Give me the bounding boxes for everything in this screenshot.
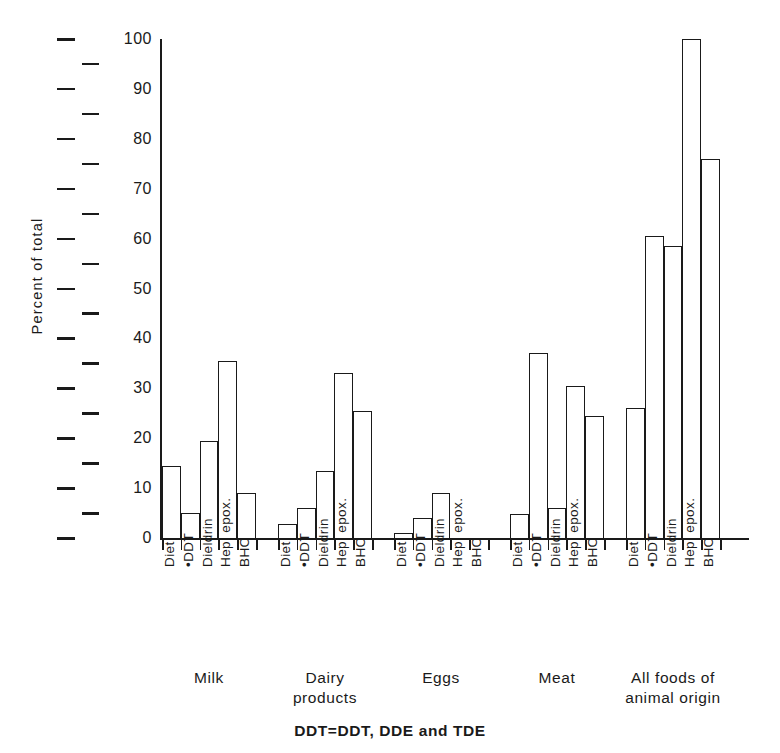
x-tick: [256, 538, 258, 550]
y-tick-major-30: [57, 387, 75, 390]
category-label-hepepox: Hep. epox.: [334, 498, 349, 567]
category-label-ddt: •DDT: [529, 533, 544, 567]
category-label-bhc: BHC: [585, 537, 600, 567]
y-tick-minor-95: [82, 63, 99, 66]
bar-milk-diet: [162, 466, 181, 538]
y-tick-major-0: [57, 537, 75, 540]
y-tick-label-80: 80: [106, 130, 152, 148]
y-tick-major-70: [57, 188, 75, 191]
bar-meat-diet: [510, 514, 529, 538]
category-label-hepepox: Hep. epox.: [218, 498, 233, 567]
group-label-all-foods-of-animal-origin: All foods of animal origin: [598, 668, 748, 709]
x-tick: [488, 538, 490, 550]
y-tick-minor-75: [82, 163, 99, 166]
y-axis-title: Percent of total: [29, 176, 45, 376]
y-tick-label-90: 90: [106, 80, 152, 98]
chart-footnote: DDT=DDT, DDE and TDE: [0, 722, 780, 740]
y-tick-major-40: [57, 337, 75, 340]
y-tick-major-50: [57, 288, 75, 291]
y-tick-major-90: [57, 88, 75, 91]
category-label-dieldrin: Dieldrin: [200, 518, 215, 567]
bar-all-foods-of-animal-origin-ddt: [645, 236, 664, 538]
y-tick-minor-65: [82, 213, 99, 216]
y-tick-minor-5: [82, 512, 99, 515]
category-label-diet: Diet: [162, 541, 177, 567]
bar-all-foods-of-animal-origin-hepepox: [682, 39, 701, 538]
y-tick-label-10: 10: [106, 479, 152, 497]
y-tick-label-30: 30: [106, 379, 152, 397]
y-tick-minor-55: [82, 263, 99, 266]
category-label-diet: Diet: [278, 541, 293, 567]
category-label-dieldrin: Dieldrin: [316, 518, 331, 567]
y-tick-label-20: 20: [106, 429, 152, 447]
category-label-ddt: •DDT: [413, 533, 428, 567]
category-label-ddt: •DDT: [181, 533, 196, 567]
y-tick-major-20: [57, 437, 75, 440]
category-label-dieldrin: Dieldrin: [548, 518, 563, 567]
category-label-bhc: BHC: [353, 537, 368, 567]
bar-all-foods-of-animal-origin-diet: [626, 408, 645, 538]
y-tick-major-10: [57, 487, 75, 490]
y-axis-line: [160, 39, 162, 538]
y-tick-label-60: 60: [106, 230, 152, 248]
bar-dairy-products-diet: [278, 524, 297, 538]
x-tick: [372, 538, 374, 550]
category-label-diet: Diet: [626, 541, 641, 567]
bar-meat-ddt: [529, 353, 548, 538]
y-tick-major-100: [57, 38, 75, 41]
bar-meat-bhc: [585, 416, 604, 538]
y-tick-major-80: [57, 138, 75, 141]
category-label-ddt: •DDT: [297, 533, 312, 567]
bar-eggs-diet: [394, 533, 413, 538]
y-tick-minor-85: [82, 113, 99, 116]
x-tick: [604, 538, 606, 550]
category-label-hepepox: Hep. epox.: [450, 498, 465, 567]
y-tick-major-60: [57, 238, 75, 241]
bar-dairy-products-bhc: [353, 411, 372, 538]
y-tick-label-50: 50: [106, 280, 152, 298]
bar-all-foods-of-animal-origin-dieldrin: [664, 246, 683, 538]
y-tick-label-40: 40: [106, 329, 152, 347]
bar-milk-bhc: [237, 493, 256, 538]
y-tick-label-70: 70: [106, 180, 152, 198]
category-label-bhc: BHC: [469, 537, 484, 567]
y-tick-minor-25: [82, 412, 99, 415]
category-label-bhc: BHC: [701, 537, 716, 567]
chart-figure: Percent of total 0102030405060708090100 …: [0, 0, 780, 753]
category-label-hepepox: Hep. epox.: [566, 498, 581, 567]
y-tick-minor-35: [82, 362, 99, 365]
y-tick-label-100: 100: [106, 30, 152, 48]
category-label-dieldrin: Dieldrin: [664, 518, 679, 567]
category-label-bhc: BHC: [237, 537, 252, 567]
category-label-diet: Diet: [510, 541, 525, 567]
category-label-ddt: •DDT: [645, 533, 660, 567]
x-tick: [720, 538, 722, 550]
category-label-dieldrin: Dieldrin: [432, 518, 447, 567]
category-label-diet: Diet: [394, 541, 409, 567]
y-tick-minor-15: [82, 462, 99, 465]
y-tick-label-0: 0: [106, 529, 152, 547]
y-tick-minor-45: [82, 312, 99, 315]
category-label-hepepox: Hep. epox.: [682, 498, 697, 567]
bar-all-foods-of-animal-origin-bhc: [701, 159, 720, 538]
